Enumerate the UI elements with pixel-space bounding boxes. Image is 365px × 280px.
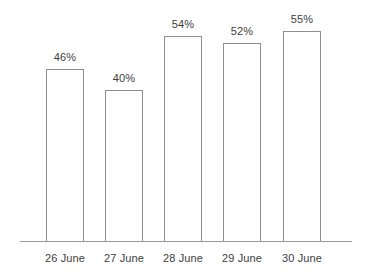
bar-rect[interactable]: [283, 31, 321, 242]
bar-group[interactable]: 55%: [283, 13, 321, 242]
bar-value-label: 40%: [113, 72, 135, 84]
bar-group[interactable]: 40%: [105, 72, 143, 242]
bar-rect[interactable]: [46, 69, 84, 242]
bar-rect[interactable]: [223, 43, 261, 242]
plot-area: 46% 40% 54% 52% 55%: [0, 0, 365, 242]
x-axis-line: [20, 241, 352, 242]
bar-rect[interactable]: [164, 36, 202, 242]
bar-value-label: 54%: [172, 18, 194, 30]
x-tick-label: 30 June: [271, 252, 333, 265]
x-tick-label: 26 June: [34, 252, 96, 265]
x-tick-label: 29 June: [211, 252, 273, 265]
bar-value-label: 55%: [291, 13, 313, 25]
bar-value-label: 46%: [54, 51, 76, 63]
x-tick-label: 27 June: [93, 252, 155, 265]
bar-rect[interactable]: [105, 90, 143, 242]
bar-group[interactable]: 46%: [46, 51, 84, 242]
x-tick-label: 28 June: [152, 252, 214, 265]
bar-group[interactable]: 54%: [164, 18, 202, 242]
bar-value-label: 52%: [231, 25, 253, 37]
bar-group[interactable]: 52%: [223, 25, 261, 242]
bar-chart: 46% 40% 54% 52% 55% 26 June 27 June 28 J…: [0, 0, 365, 280]
